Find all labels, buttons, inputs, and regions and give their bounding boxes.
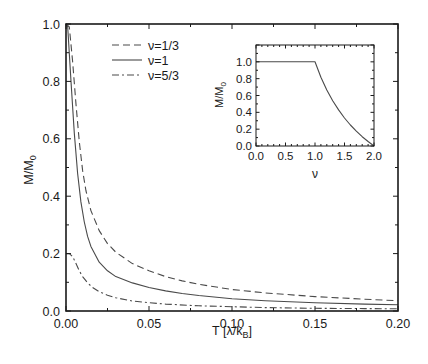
x-tick-label: 2.0 <box>366 150 382 162</box>
inset-x-tick-labels: 0.00.51.01.52.0 <box>248 150 382 162</box>
main-y-tick-labels: 0.00.20.40.60.81.0 <box>43 18 60 319</box>
inset-y-axis-label: M/M0 <box>213 82 228 108</box>
y-tick-label: 0.8 <box>236 73 252 85</box>
legend-label-1: ν=1/3 <box>148 39 179 53</box>
x-tick-label: 0.05 <box>137 317 161 331</box>
inset-x-axis-label: ν <box>312 167 318 181</box>
legend: ν=1/3ν=1ν=5/3 <box>112 39 179 83</box>
y-axis-label: M/M0 <box>22 155 38 184</box>
y-tick-label: 0.6 <box>236 90 252 102</box>
x-tick-label: 0.5 <box>278 150 294 162</box>
y-tick-label: 0.0 <box>236 140 252 152</box>
inset-plot: 0.00.51.01.52.0 0.00.20.40.60.81.0 ν M/M… <box>213 45 382 181</box>
y-tick-label: 0.4 <box>236 106 253 118</box>
x-tick-label: 0.15 <box>303 317 327 331</box>
x-axis-label: T [λ/kB] <box>212 324 252 340</box>
legend-label-3: ν=5/3 <box>148 69 179 83</box>
y-tick-label: 1.0 <box>43 18 60 32</box>
y-tick-label: 0.6 <box>43 132 60 146</box>
y-tick-label: 0.2 <box>43 247 60 261</box>
chart-figure: 0.000.050.100.150.20 0.00.20.40.60.81.0 … <box>0 0 428 364</box>
y-tick-label: 1.0 <box>236 56 252 68</box>
x-tick-label: 1.5 <box>337 150 353 162</box>
y-tick-label: 0.0 <box>43 305 60 319</box>
y-tick-label: 0.2 <box>236 123 252 135</box>
x-tick-label: 1.0 <box>307 150 323 162</box>
legend-label-2: ν=1 <box>148 54 169 68</box>
y-tick-label: 0.8 <box>43 75 60 89</box>
x-tick-label: 0.00 <box>54 317 78 331</box>
series-line-3 <box>66 254 398 309</box>
y-tick-label: 0.4 <box>43 190 60 204</box>
x-tick-label: 0.20 <box>386 317 410 331</box>
inset-y-tick-labels: 0.00.20.40.60.81.0 <box>236 56 253 152</box>
